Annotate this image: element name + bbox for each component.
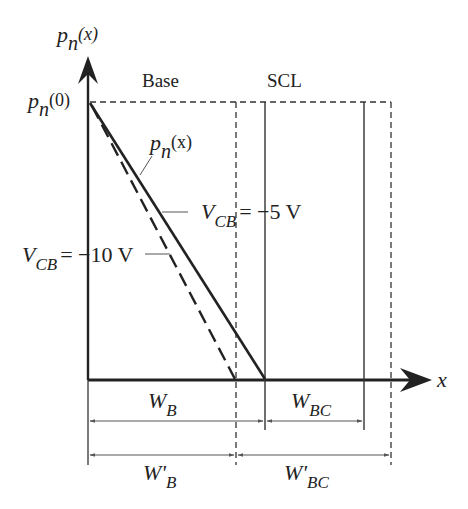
x-axis-label: x bbox=[436, 367, 447, 392]
y-intercept-label: pn(0) bbox=[26, 88, 70, 120]
curve-label-pn: pn(x) bbox=[148, 130, 192, 162]
curve-label-vcb-5v: VCB= −5 V bbox=[201, 199, 302, 231]
y-axis bbox=[78, 56, 98, 380]
region-label-base: Base bbox=[142, 70, 179, 91]
label-wb: WB bbox=[148, 388, 177, 420]
label-wbc: WBC bbox=[291, 388, 332, 420]
label-wb-prime: W'B bbox=[143, 460, 177, 492]
leader-pn bbox=[140, 156, 152, 175]
curve-label-vcb-10v: VCB= −10 V bbox=[22, 242, 134, 274]
region-label-scl: SCL bbox=[267, 70, 302, 91]
y-axis-label: pn(x) bbox=[55, 22, 98, 54]
minority-carrier-profile-diagram: pn(x) pn(0) Base SCL pn(x) VCB= −5 V VCB… bbox=[0, 0, 468, 509]
label-wbc-prime: W'BC bbox=[284, 460, 329, 492]
